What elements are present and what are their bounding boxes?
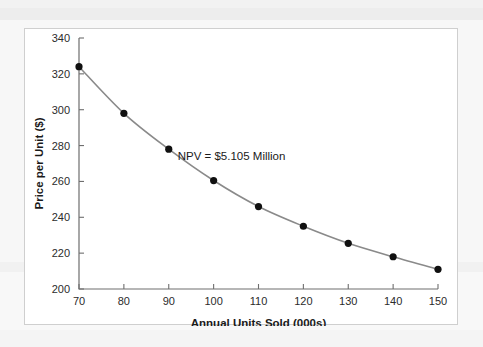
data-point-marker: [300, 223, 307, 230]
x-tick-label: 120: [294, 295, 312, 307]
chart-axes: [79, 38, 438, 289]
y-axis-tick-labels: 200220240260280300320340: [52, 32, 70, 295]
x-tick-label: 140: [384, 295, 402, 307]
y-tick-label: 200: [52, 283, 70, 295]
y-tick-label: 320: [52, 68, 70, 80]
y-tick-label: 340: [52, 32, 70, 44]
data-point-marker: [75, 63, 82, 70]
y-tick-label: 240: [52, 211, 70, 223]
data-point-marker: [165, 146, 172, 153]
npv-annotation: NPV = $5.105 Million: [178, 150, 286, 162]
data-point-marker: [210, 177, 217, 184]
data-point-marker: [390, 253, 397, 260]
data-point-marker: [255, 203, 262, 210]
y-tick-label: 300: [52, 104, 70, 116]
x-tick-label: 90: [163, 295, 175, 307]
y-axis-ticks: [79, 38, 84, 289]
x-axis-title: Annual Units Sold (000s): [191, 317, 327, 326]
x-tick-label: 110: [250, 295, 268, 307]
price-curve: [79, 67, 438, 270]
x-tick-label: 70: [73, 295, 85, 307]
x-tick-label: 130: [339, 295, 357, 307]
data-point-marker: [434, 266, 441, 273]
y-tick-label: 280: [52, 140, 70, 152]
x-tick-label: 80: [118, 295, 130, 307]
x-axis-tick-labels: 708090100110120130140150: [73, 295, 447, 307]
x-tick-label: 150: [429, 295, 447, 307]
line-chart-canvas: 708090100110120130140150 200220240260280…: [25, 29, 459, 326]
data-point-marker: [345, 240, 352, 247]
y-axis-title: Price per Unit ($): [33, 117, 45, 209]
data-point-marker: [120, 110, 127, 117]
data-point-markers: [75, 63, 441, 273]
y-tick-label: 260: [52, 175, 70, 187]
chart-figure-frame: 708090100110120130140150 200220240260280…: [24, 28, 458, 325]
y-tick-label: 220: [52, 247, 70, 259]
chart-annotation: NPV = $5.105 Million: [178, 150, 286, 162]
x-axis-ticks: [79, 284, 438, 289]
x-tick-label: 100: [204, 295, 222, 307]
